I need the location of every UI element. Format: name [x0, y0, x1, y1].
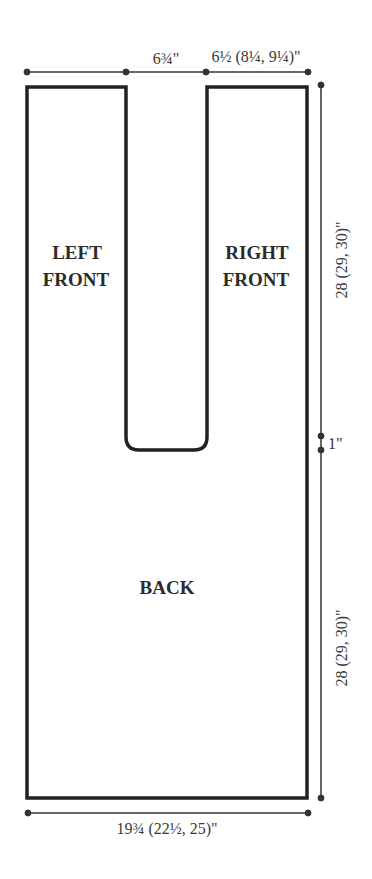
top-dimension-line	[24, 69, 311, 75]
bottom-dimension-line	[25, 810, 311, 816]
right-front-label-line2: FRONT	[223, 269, 290, 290]
back-label: BACK	[140, 577, 195, 598]
garment-outline	[27, 87, 307, 798]
upper-length-dimension: 28 (29, 30)"	[333, 221, 351, 298]
top-right-width-dimension: 6½ (8¼, 9¼)"	[211, 48, 300, 66]
left-front-label-line2: FRONT	[43, 269, 110, 290]
right-dimension-line	[318, 82, 324, 801]
gap-dimension: 1"	[328, 435, 343, 452]
bottom-width-dimension: 19¾ (22½, 25)"	[116, 820, 217, 838]
top-gap-dimension: 6¾"	[153, 50, 180, 67]
lower-length-dimension: 28 (29, 30)"	[333, 609, 351, 686]
schematic-diagram: LEFT FRONT RIGHT FRONT BACK 6¾" 6½ (8¼, …	[0, 0, 372, 879]
right-front-label-line1: RIGHT	[225, 242, 289, 263]
left-front-label-line1: LEFT	[52, 242, 102, 263]
